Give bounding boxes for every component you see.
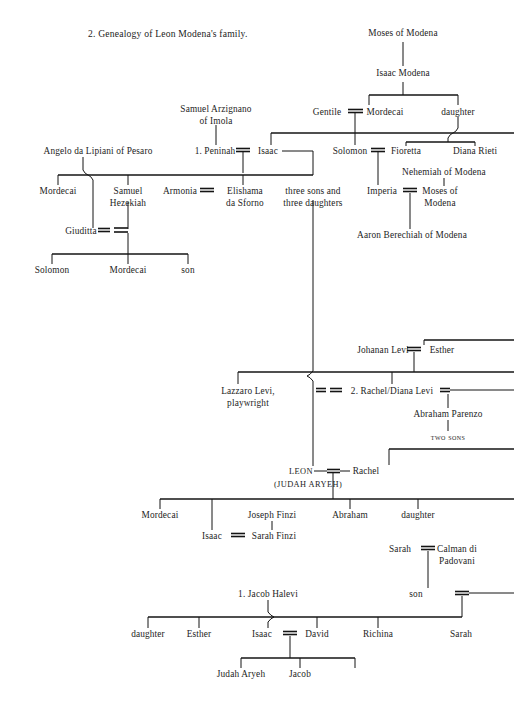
person-son-bottom: son: [181, 265, 194, 276]
person-sarah-c: Judah Aryeh: [217, 669, 265, 680]
person-abraham-parenzo: Abraham Parenzo: [413, 409, 482, 420]
person-fioretta: Fioretta: [391, 146, 421, 157]
person-diana-rieti: Diana Rieti: [453, 146, 497, 157]
person-sarah-padovani: Sarah: [389, 544, 411, 555]
person-angelo-da-lipiani: Angelo da Lipiani of Pesaro: [44, 146, 153, 157]
person-three-sons-three-daughters: three sons andthree daughters: [271, 186, 355, 209]
person-two-sons: two sons: [431, 432, 465, 443]
person-moses-of-modena: Moses of Modena: [368, 28, 437, 39]
person-samuel-arzignano: Samuel Arzignanoof Imola: [170, 104, 262, 127]
person-mordecai-bottom: Mordecai: [110, 265, 147, 276]
person-aaron-berechiah-of-modena: Aaron Berechiah of Modena: [357, 230, 467, 241]
person-isaac-peninah: Isaac: [258, 146, 278, 157]
person-mordecai-2: Mordecai: [40, 186, 77, 197]
person-moses-of-modena-2: Moses ofModena: [411, 186, 469, 209]
person-armonia: Armonia: [163, 186, 197, 197]
person-leon-alt-name: (JUDAH ARYEH): [274, 479, 342, 490]
person-joseph-finzi: Joseph Finzi: [248, 510, 297, 521]
person-isaac-finzi: Isaac: [202, 531, 222, 542]
person-abraham-leon: Abraham: [332, 510, 368, 521]
person-imperia: Imperia: [367, 186, 397, 197]
person-elishama-da-sforno: Elishamada Sforno: [214, 186, 276, 209]
person-isaac-b: David: [305, 629, 328, 640]
person-daughter-b: Esther: [187, 629, 212, 640]
person-esther-levi: Esther: [430, 345, 455, 356]
person-daughter-top: daughter: [441, 107, 475, 118]
person-samuel-hezekiah: SamuelHezekiah: [94, 186, 162, 209]
person-judah-aryeh-c: Jacob: [289, 669, 311, 680]
person-jacob-halevi: son: [409, 589, 422, 600]
person-gentile: Gentile: [313, 107, 341, 118]
person-richina-b: Sarah: [450, 629, 472, 640]
person-daughter-leon: daughter: [401, 510, 435, 521]
person-lazzaro-levi: Lazzaro Levi,playwright: [210, 386, 286, 409]
person-rachel-diana-levi: 2. Rachel/Diana Levi: [351, 386, 433, 397]
person-esther-b: Isaac: [252, 629, 272, 640]
person-giuditta: Giuditta: [65, 226, 97, 237]
person-peninah: 1. Peninah: [195, 146, 236, 157]
person-nehemiah-of-modena: Nehemiah of Modena: [402, 167, 486, 178]
genealogy-figure: 2. Genealogy of Leon Modena's family.: [0, 0, 514, 722]
person-judah-monte-scudolo: 1. Jacob Halevi: [238, 589, 298, 600]
person-leon: LEON: [289, 466, 313, 477]
person-johanan-levi: Johanan Levi: [357, 345, 409, 356]
person-solomon-top: Solomon: [333, 146, 368, 157]
person-mordecai-top: Mordecai: [367, 107, 404, 118]
person-mordecai-3: Mordecai: [142, 510, 179, 521]
person-son-b: daughter: [131, 629, 165, 640]
person-calman-di-padovani: Calman diPadovani: [426, 544, 488, 567]
person-sarah-finzi: Sarah Finzi: [252, 531, 296, 542]
person-rachel-leon: Rachel: [353, 466, 380, 477]
person-isaac-modena: Isaac Modena: [376, 68, 430, 79]
person-david-b: Richina: [363, 629, 393, 640]
person-solomon-bottom: Solomon: [35, 265, 70, 276]
